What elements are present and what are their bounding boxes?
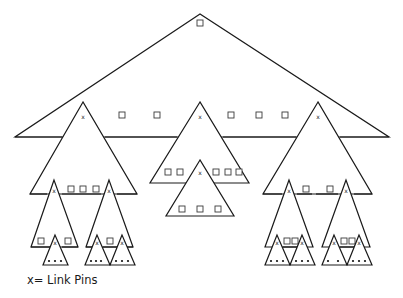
- member-square: [197, 20, 203, 26]
- svg-text:x: x: [53, 239, 57, 246]
- linking-pin-diagram: x x x x x: [0, 0, 403, 298]
- legend-label: x= Link Pins: [27, 273, 97, 287]
- link-pin-marker: x: [287, 187, 291, 194]
- link-pin-marker: x: [344, 187, 348, 194]
- svg-text:x: x: [95, 239, 99, 246]
- link-pin-marker: x: [107, 187, 111, 194]
- link-pin-marker: x: [198, 169, 202, 176]
- svg-text:x: x: [275, 239, 279, 246]
- link-pin-marker: x: [198, 113, 202, 120]
- link-pin-marker: x: [316, 113, 320, 120]
- svg-text:x: x: [300, 239, 304, 246]
- link-pin-marker: x: [52, 187, 56, 194]
- svg-text:x: x: [357, 239, 361, 246]
- link-pin-marker: x: [81, 113, 85, 120]
- svg-text:x: x: [120, 239, 124, 246]
- svg-text:x: x: [332, 239, 336, 246]
